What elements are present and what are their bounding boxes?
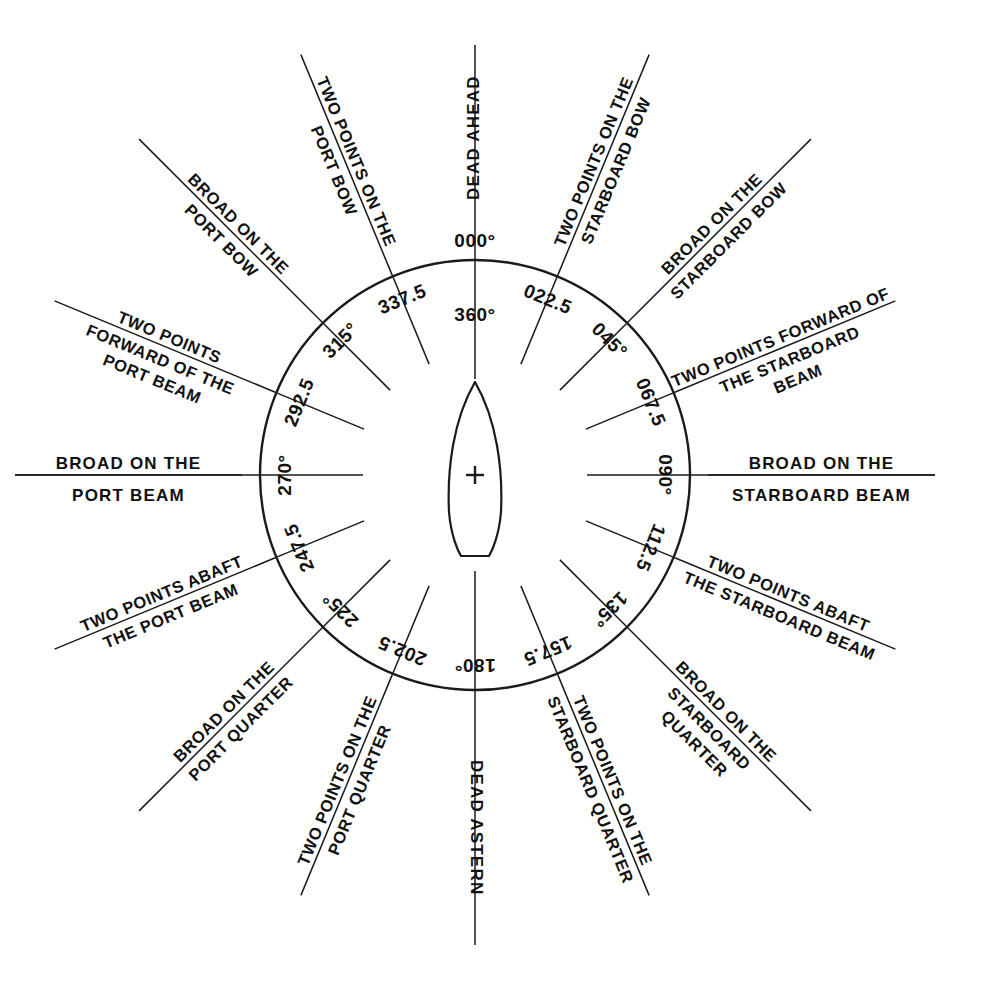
- bearing-label-text: BROAD ON THE: [56, 454, 202, 473]
- degree-label-0225: 022.5: [521, 280, 575, 319]
- bearing-name-labels-group: DEAD AHEADTWO POINTS ON THESTARBOARD BOW…: [15, 74, 935, 895]
- center-cross-icon: [466, 466, 484, 484]
- bearing-label-315: BROAD ON THEPORT BOW: [181, 170, 292, 281]
- bearing-label-text: DEAD ASTERN: [467, 760, 486, 895]
- degree-label-1125: 112.5: [632, 521, 670, 574]
- bearing-label-2025: TWO POINTS ON THEPORT QUARTER: [294, 693, 394, 868]
- ship-outline-group: [449, 382, 502, 556]
- bearing-label-0225: TWO POINTS ON THESTARBOARD BOW: [550, 74, 654, 249]
- degree-label-0675: 067.5: [632, 375, 671, 429]
- bearing-label-2475: TWO POINTS ABAFTTHE PORT BEAM: [78, 552, 246, 652]
- degree-label-180: 180°: [454, 655, 495, 676]
- bearing-label-text: DEAD AHEAD: [464, 75, 483, 200]
- bearing-leader-315: [139, 139, 323, 323]
- bearing-leader-1125: [674, 557, 896, 649]
- bearing-label-270: BROAD ON THEPORT BEAM: [15, 454, 242, 505]
- bearing-label-180: DEAD ASTERN: [467, 760, 486, 895]
- bearing-label-225: BROAD ON THEPORT QUARTER: [170, 657, 297, 784]
- relative-bearing-diagram: 360°000°022.5045°067.5090°112.5135°157.5…: [0, 0, 991, 985]
- bearing-label-text: PORT BEAM: [72, 486, 185, 505]
- bearing-label-090: BROAD ON THESTARBOARD BEAM: [708, 454, 935, 505]
- bearing-leader-1575: [557, 674, 649, 896]
- bearing-label-1575: TWO POINTS ON THESTARBOARD QUARTER: [544, 693, 656, 886]
- degree-label-090: 090°: [655, 454, 676, 495]
- degree-label-2025: 202.5: [375, 632, 429, 671]
- bearing-label-0675: TWO POINTS FORWARD OFTHE STARBOARDBEAM: [669, 284, 892, 397]
- bearing-leader-045: [627, 139, 811, 323]
- bearing-label-text: BROAD ON THE: [749, 454, 895, 473]
- diagram-canvas: 360°000°022.5045°067.5090°112.5135°157.5…: [0, 0, 991, 985]
- bearing-leader-135: [627, 627, 811, 811]
- bearing-leader-0225: [557, 55, 649, 277]
- degree-label-2925: 292.5: [280, 375, 319, 429]
- bearing-leader-225: [139, 627, 323, 811]
- degree-label-3375: 337.5: [375, 280, 429, 319]
- bearing-leader-2025: [301, 674, 393, 896]
- bearing-label-1125: TWO POINTS ABAFTTHE STARBOARD BEAM: [681, 552, 878, 663]
- bearing-label-000: DEAD AHEAD: [464, 75, 483, 200]
- degree-label-000: 000°: [454, 230, 495, 251]
- degree-label-360: 360°: [454, 304, 495, 325]
- degree-label-1575: 157.5: [521, 632, 575, 671]
- bearing-leader-3375: [301, 55, 393, 277]
- bearing-label-045: BROAD ON THESTARBOARD BOW: [657, 170, 790, 303]
- degree-label-270: 270°: [274, 454, 295, 495]
- degree-label-2475: 247.5: [280, 521, 319, 575]
- bearing-leader-2475: [55, 557, 277, 649]
- bearing-label-3375: TWO POINTS ON THEPORT BOW: [308, 74, 400, 249]
- bearing-label-text: STARBOARD BEAM: [732, 486, 911, 505]
